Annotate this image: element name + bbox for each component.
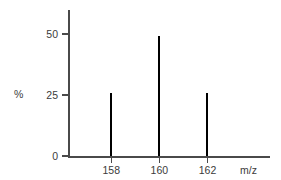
x-axis-tick — [111, 157, 112, 163]
y-axis-title: % — [14, 89, 23, 100]
y-axis-tick — [62, 33, 69, 34]
spectrum-peak — [110, 93, 112, 156]
x-axis-title: m/z — [240, 165, 257, 176]
y-axis-tick-label-text: 0 — [24, 151, 58, 162]
y-axis-tick-label: 25 — [24, 90, 58, 101]
spectrum-peak — [158, 36, 160, 156]
x-axis-tick-label: 158 — [89, 165, 133, 176]
y-axis-tick-label-text: 25 — [24, 90, 58, 101]
x-axis-tick — [207, 157, 208, 163]
x-axis-tick-label: 160 — [137, 165, 181, 176]
y-axis-tick — [62, 155, 69, 156]
y-axis-tick — [62, 94, 69, 95]
x-axis-line — [68, 156, 270, 158]
mass-spectrum-chart: 02550 158160162 % m/z — [0, 0, 281, 180]
y-axis-tick-label: 0 — [24, 151, 58, 162]
x-axis-tick — [159, 157, 160, 163]
y-axis-tick-label-text: 50 — [24, 29, 58, 40]
y-axis-line — [68, 10, 70, 157]
spectrum-peak — [206, 93, 208, 156]
y-axis-tick-label: 50 — [24, 29, 58, 40]
x-axis-tick-label: 162 — [185, 165, 229, 176]
